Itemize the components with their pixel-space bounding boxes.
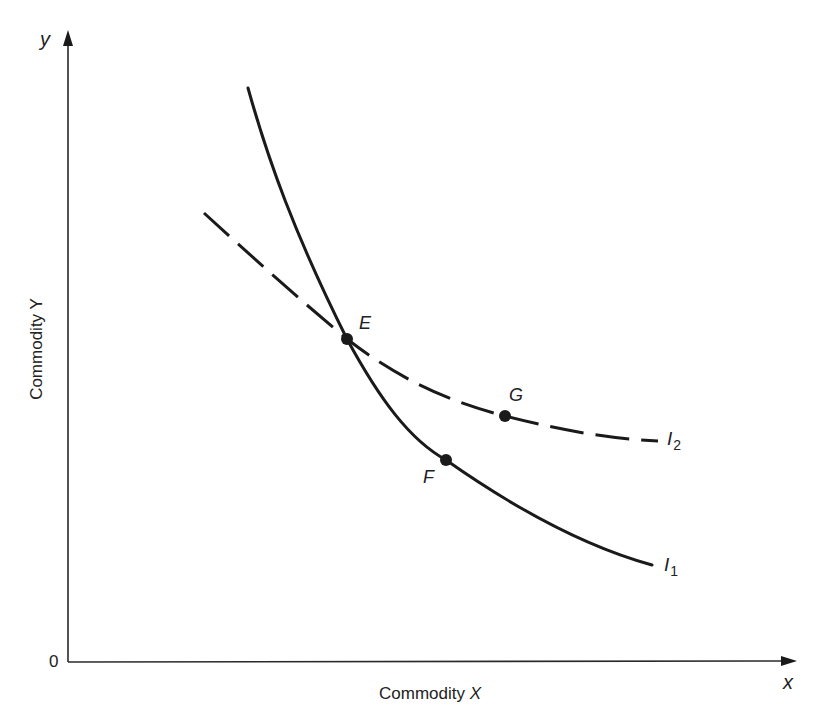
point-f-label: F [423, 467, 434, 488]
indifference-curve-diagram [0, 0, 819, 714]
x-axis [68, 656, 797, 666]
x-axis-title-word: Commodity [379, 684, 465, 703]
y-axis-symbol: y [40, 28, 50, 51]
curve-i1-label-main: I [664, 554, 669, 575]
indifference-curve-i1 [248, 88, 652, 565]
y-axis [63, 30, 73, 662]
x-axis-symbol: x [783, 671, 793, 694]
x-axis-title: Commodity X [379, 684, 481, 704]
y-axis-arrow-icon [63, 30, 73, 46]
curve-i2-label: I2 [667, 428, 681, 453]
curve-i2-label-main: I [667, 428, 672, 449]
y-axis-title: Commodity Y [27, 298, 47, 400]
curve-i1-label-sub: 1 [670, 563, 678, 579]
point-e-label: E [359, 313, 371, 334]
point-e-marker [341, 333, 353, 345]
point-g-marker [499, 410, 511, 422]
x-axis-title-var: X [470, 684, 481, 703]
x-axis-arrow-icon [781, 656, 797, 666]
curve-i1-label: I1 [664, 554, 678, 579]
point-f-marker [440, 454, 452, 466]
point-g-label: G [509, 385, 523, 406]
curve-i2-label-sub: 2 [673, 437, 681, 453]
indifference-curve-i2 [204, 213, 658, 441]
origin-label: 0 [49, 652, 58, 672]
